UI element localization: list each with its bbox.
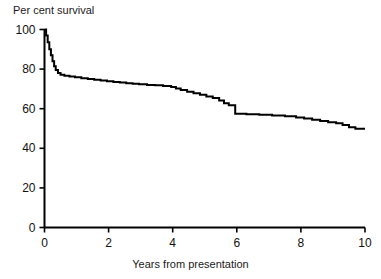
x-axis-tick-label: 6 [224, 237, 250, 249]
y-axis-tick-label: 40 [10, 142, 36, 154]
x-axis-tick-label: 8 [288, 237, 314, 249]
survival-chart: Per cent survival Years from presentatio… [0, 0, 381, 279]
y-axis-tick-label: 100 [10, 24, 36, 36]
y-axis-tick-label: 80 [10, 63, 36, 75]
x-axis-tick-label: 2 [96, 237, 122, 249]
x-axis-tick-label: 0 [32, 237, 58, 249]
y-axis-tick-label: 0 [10, 222, 36, 234]
x-axis-tick-label: 10 [352, 237, 378, 249]
survival-curve-line [45, 30, 366, 129]
x-axis-tick-label: 4 [160, 237, 186, 249]
y-axis-tick-label: 60 [10, 103, 36, 115]
axis-lines [44, 29, 365, 228]
y-axis-tick-label: 20 [10, 182, 36, 194]
